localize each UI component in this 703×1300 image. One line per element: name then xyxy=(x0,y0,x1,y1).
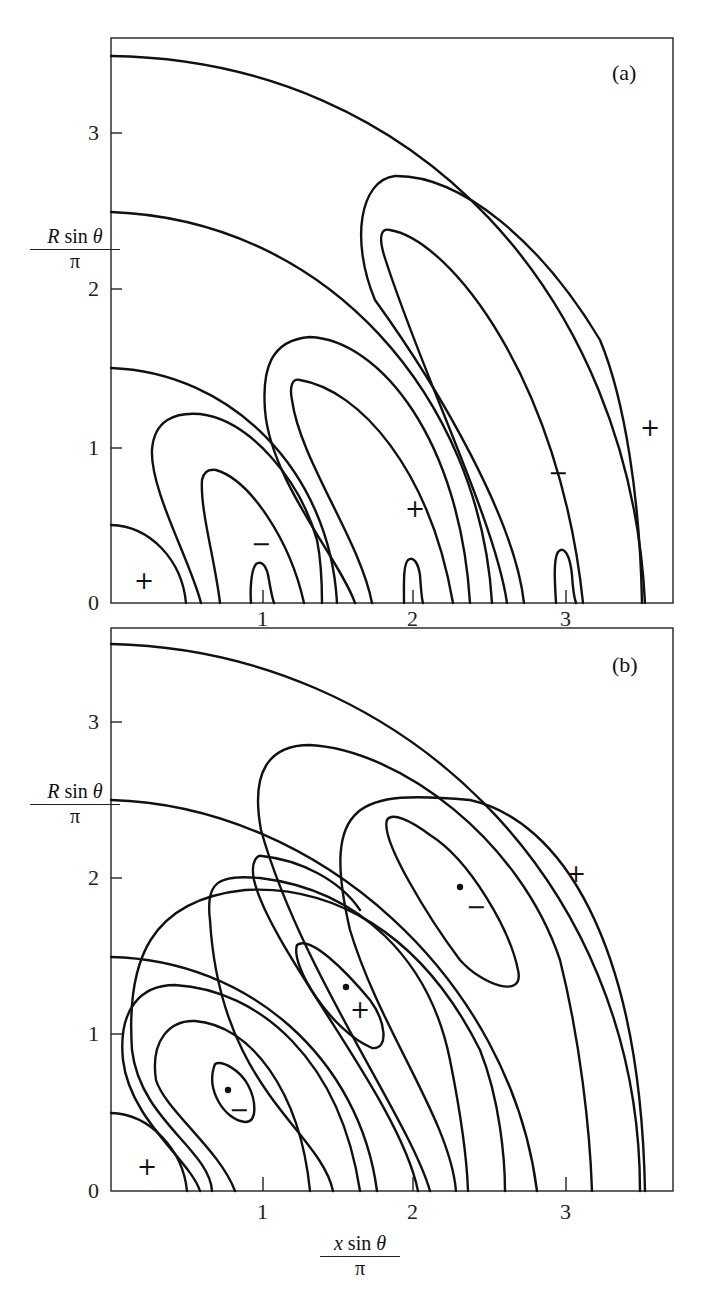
xtick-label-3: 3 xyxy=(560,608,571,630)
sign-label: + xyxy=(566,862,586,886)
ytick-label-2: 2 xyxy=(88,867,99,889)
contour-figure xyxy=(0,0,703,1300)
panel-a-tag: (a) xyxy=(612,60,636,86)
sign-label: + xyxy=(405,497,425,521)
y-axis-label-a: R sin θ π xyxy=(30,225,120,273)
ytick-label-0: 0 xyxy=(88,1180,99,1202)
contour-lobe-2-inner xyxy=(296,943,383,1048)
ytick-label-3: 3 xyxy=(88,122,99,144)
x-axis-label: x sin θ π xyxy=(320,1232,400,1280)
xtick-label-1: 1 xyxy=(257,608,268,630)
extremum-dot-3 xyxy=(457,884,463,890)
sign-label: + xyxy=(134,569,154,593)
extremum-dot-2 xyxy=(343,984,349,990)
contour-r3_5 xyxy=(111,56,645,603)
contour-tongue-2-outer xyxy=(264,337,470,603)
contour-tongue-3-outer xyxy=(361,176,642,603)
extremum-dot-1 xyxy=(225,1087,231,1093)
panel-a xyxy=(111,38,673,603)
ytick-label-1: 1 xyxy=(88,437,99,459)
contour-r2_5 xyxy=(111,212,492,603)
y-axis-label-b: R sin θ π xyxy=(30,780,120,828)
contour-lobe-2-outer xyxy=(131,890,505,1191)
xtick-label-2: 2 xyxy=(407,608,418,630)
xtick-label-1: 1 xyxy=(257,1201,268,1223)
ytick-label-3: 3 xyxy=(88,711,99,733)
contour-tongue-3-inner xyxy=(381,230,583,603)
xtick-label-3: 3 xyxy=(560,1201,571,1223)
xtick-label-2: 2 xyxy=(407,1201,418,1223)
ytick-label-0: 0 xyxy=(88,592,99,614)
sign-label: − xyxy=(548,461,568,485)
panel-b-tag: (b) xyxy=(612,652,638,678)
ytick-label-1: 1 xyxy=(88,1023,99,1045)
sign-label: − xyxy=(229,1098,249,1122)
sign-label: − xyxy=(251,532,271,556)
contour-tongue-2-inner xyxy=(291,380,453,603)
sign-label: − xyxy=(466,895,486,919)
ytick-label-2: 2 xyxy=(88,278,99,300)
contour-lobe-1-outer xyxy=(122,985,360,1191)
contour-lobe-3-mid xyxy=(253,856,418,1191)
sign-label: + xyxy=(137,1155,157,1179)
panel-b xyxy=(111,628,673,1191)
sign-label: + xyxy=(640,416,660,440)
sign-label: + xyxy=(350,998,370,1022)
contour-lobe-3-band xyxy=(340,797,645,1191)
contour-r3_5 xyxy=(111,644,640,1191)
